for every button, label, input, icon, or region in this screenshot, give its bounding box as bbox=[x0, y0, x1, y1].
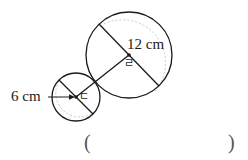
large-circle-center-label: ㄹ bbox=[124, 58, 134, 69]
answer-blank-open-paren: ( bbox=[84, 132, 91, 152]
geometry-diagram bbox=[0, 0, 248, 160]
small-circle-center-label: ㄷ bbox=[79, 91, 89, 102]
answer-blank-close-paren: ) bbox=[228, 132, 235, 152]
large-circle-construction-arc bbox=[104, 20, 166, 91]
small-circle-measure-label: 6 cm bbox=[11, 89, 41, 104]
worksheet-figure-page: 12 cm 6 cm ㄹ ㄷ ( ) bbox=[0, 0, 248, 160]
large-circle-measure-label: 12 cm bbox=[127, 37, 164, 52]
